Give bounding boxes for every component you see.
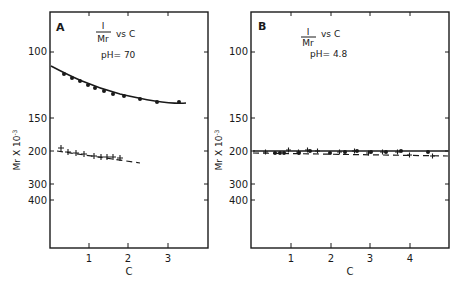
y-tick-400: 400 <box>229 195 248 206</box>
y-tick-300: 300 <box>28 179 47 190</box>
x-tick-1: 1 <box>86 253 92 264</box>
x-tick-3: 3 <box>165 253 171 264</box>
y-tick-150: 150 <box>28 113 47 124</box>
fraction-numerator: I <box>102 21 105 31</box>
x-tick-2: 2 <box>328 253 334 264</box>
svg-text:Mr X 10-3: Mr X 10-3 <box>11 129 22 170</box>
ph-annotation: pH= 4.8 <box>310 49 347 59</box>
ph-annotation: pH= 70 <box>101 50 136 60</box>
svg-text:Mr X 10-3: Mr X 10-3 <box>213 129 224 170</box>
y-tick-150: 150 <box>229 113 248 124</box>
x-tick-3: 3 <box>367 253 373 264</box>
y-tick-400: 400 <box>28 195 47 206</box>
panel-b: 100 150 200 300 400 1 2 3 4 C Mr X 10-3 … <box>213 12 449 277</box>
plus-markers <box>58 145 123 161</box>
y-axis-label: Mr X 10-3 <box>11 129 22 170</box>
x-tick-1: 1 <box>288 253 294 264</box>
title-vs: vs C <box>321 29 340 39</box>
y-tick-100: 100 <box>28 46 47 57</box>
x-tick-2: 2 <box>125 253 131 264</box>
fraction-numerator: I <box>307 27 310 37</box>
title-vs: vs C <box>116 29 135 39</box>
y-tick-200: 200 <box>28 146 47 157</box>
y-axis-label: Mr X 10-3 <box>213 129 224 170</box>
panel-letter: A <box>56 21 65 34</box>
fraction-denominator: Mr <box>302 38 314 48</box>
x-tick-4: 4 <box>407 253 413 264</box>
y-tick-100: 100 <box>229 46 248 57</box>
y-tick-300: 300 <box>229 179 248 190</box>
panel-letter: B <box>258 20 266 33</box>
figure: 100 150 200 300 400 1 2 3 C Mr X 10-3 A … <box>0 0 463 281</box>
panel-a-frame <box>50 12 208 248</box>
panel-a: 100 150 200 300 400 1 2 3 C Mr X 10-3 A … <box>11 12 208 277</box>
y-tick-200: 200 <box>229 146 248 157</box>
fit-curve-solid <box>51 66 186 103</box>
x-axis-label: C <box>347 266 354 277</box>
x-axis-label: C <box>126 266 133 277</box>
panel-b-frame <box>251 12 449 248</box>
fraction-denominator: Mr <box>97 34 109 44</box>
dot-markers <box>62 72 181 104</box>
